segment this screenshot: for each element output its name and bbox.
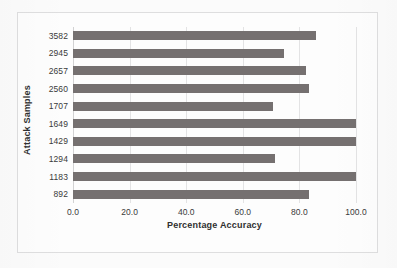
y-axis-tick-label: 1707: [49, 101, 68, 111]
bar-row: 1649: [73, 115, 356, 133]
y-axis-tick-label: 1294: [49, 154, 68, 164]
bar: [73, 66, 306, 75]
bar: [73, 31, 316, 40]
bar-row: 2657: [73, 62, 356, 80]
y-axis-tick-label: 1429: [49, 136, 68, 146]
x-axis-tick-label: 100.0: [345, 207, 366, 217]
x-axis-tick-label: 0.0: [67, 207, 79, 217]
bar-row: 2945: [73, 45, 356, 63]
bar: [73, 172, 356, 181]
bar: [73, 137, 356, 146]
x-axis-tick-label: 40.0: [178, 207, 195, 217]
chart-frame: Attack Samples 3582294526572560170716491…: [17, 12, 378, 253]
y-axis-tick-label: 892: [54, 189, 68, 199]
plot-area: 358229452657256017071649142912941183892 …: [73, 27, 356, 203]
gridline-100.0: [356, 27, 357, 203]
y-axis-title-label: Attack Samples: [22, 85, 32, 155]
y-axis-tick-label: 2945: [49, 48, 68, 58]
y-axis-tick-label: 1649: [49, 119, 68, 129]
bar-row: 892: [73, 185, 356, 203]
bar-row: 2560: [73, 80, 356, 98]
bar-row: 3582: [73, 27, 356, 45]
bar-row: 1294: [73, 150, 356, 168]
y-axis-tick-label: 2560: [49, 84, 68, 94]
bar-row: 1183: [73, 168, 356, 186]
y-axis-tick-label: 3582: [49, 31, 68, 41]
bar-row: 1707: [73, 97, 356, 115]
x-axis-tick-label: 80.0: [291, 207, 308, 217]
x-axis-tick-label: 60.0: [235, 207, 252, 217]
bar: [73, 49, 284, 58]
x-axis-tick-label: 20.0: [121, 207, 138, 217]
y-axis-tick-label: 2657: [49, 66, 68, 76]
bar: [73, 154, 275, 163]
y-axis-tick-label: 1183: [49, 172, 68, 182]
x-axis-title: Percentage Accuracy: [73, 220, 356, 230]
bar: [73, 119, 356, 128]
bar-row: 1429: [73, 133, 356, 151]
bar: [73, 190, 309, 199]
bar: [73, 102, 273, 111]
bar: [73, 84, 309, 93]
y-axis-title: Attack Samples: [20, 65, 34, 175]
chart-screenshot: Attack Samples 3582294526572560170716491…: [0, 0, 397, 268]
